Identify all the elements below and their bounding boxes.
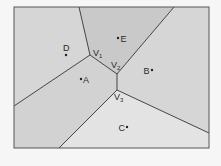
site-c-point [126,126,128,128]
site-b-label: B [144,66,150,76]
site-d-label: D [63,43,70,53]
site-b-point [151,69,153,71]
site-d-point [65,54,67,56]
voronoi-diagram: D E A B C V1 V2 V3 [0,0,221,166]
site-e-label: E [121,34,127,44]
site-e-point [117,37,119,39]
site-a-point [80,78,82,80]
site-a-label: A [83,75,89,85]
site-c-label: C [119,123,126,133]
